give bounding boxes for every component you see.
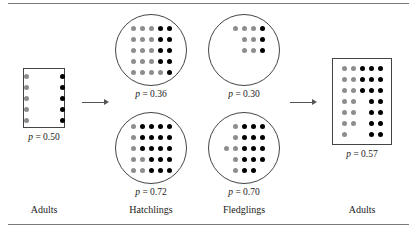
dot-empty [251,59,256,64]
dot-gray [131,124,136,129]
dot-empty [224,168,229,173]
dot-empty [360,99,365,104]
fledglings-bottom-p-value: = 0.70 [235,187,259,197]
dot-black [158,157,163,162]
panel-adults-final: p = 0.57 Adults [322,58,402,145]
dot-black [378,66,383,71]
dot-black [242,146,247,151]
dot-gray [140,70,145,75]
arrow-shaft [82,102,105,103]
dot-gray [149,48,154,53]
dot-gray [131,157,136,162]
fledglings-top-circle [208,14,280,86]
fledglings-bottom-circle [208,112,280,184]
dot-black [158,37,163,42]
dot-black [360,77,365,82]
dot-black [260,146,265,151]
dot-gray [351,88,356,93]
dot-empty [351,132,356,137]
dot-gray [24,107,29,112]
dot-gray [24,74,29,79]
dot-gray [131,48,136,53]
dot-black [260,157,265,162]
dot-gray [251,48,256,53]
dot-gray [251,37,256,42]
dot-black [158,124,163,129]
dot-gray [342,77,347,82]
dot-black [251,157,256,162]
adults-initial-box [23,68,65,128]
arrow-adults-to-hatchlings [82,98,110,108]
dot-empty [360,110,365,115]
dot-gray [140,157,145,162]
dot-gray [131,168,136,173]
dot-gray [140,26,145,31]
dot-black [260,124,265,129]
dot-gray [158,70,163,75]
dot-black [260,135,265,140]
dot-black [140,124,145,129]
top-rule [8,3,409,4]
hatchlings-bottom-circle [115,112,187,184]
dot-gray [351,77,356,82]
dot-gray [24,118,29,123]
figure-root: p = 0.50 Adults p = 0.36 p = 0.30 p = 0.… [0,0,417,235]
dot-empty [260,168,265,173]
bottom-rule [8,224,409,225]
arrow-head [104,99,109,105]
dot-gray [24,96,29,101]
dot-black [378,132,383,137]
dot-empty [224,48,229,53]
dot-black [369,121,374,126]
dot-empty [51,107,56,112]
dot-gray [131,146,136,151]
dot-gray [224,146,229,151]
dot-empty [260,59,265,64]
dot-black [378,121,383,126]
dot-empty [251,70,256,75]
fledglings-caption: Fledglings [206,204,282,215]
dot-gray [242,48,247,53]
dot-gray [131,26,136,31]
dot-empty [42,85,47,90]
dot-gray [131,135,136,140]
panel-fledglings-top: p = 0.30 [206,14,282,86]
dot-black [369,77,374,82]
dot-empty [242,59,247,64]
dot-gray [149,70,154,75]
dot-gray [351,99,356,104]
dot-black [360,66,365,71]
arrow-head [312,99,317,105]
fledglings-bottom-dot-grid [209,113,279,183]
panel-fledglings-bottom: p = 0.70 Fledglings [206,112,282,184]
fledglings-top-p-value: = 0.30 [235,89,259,99]
dot-black [149,168,154,173]
dot-black [260,26,265,31]
dot-gray [342,121,347,126]
dot-black [140,135,145,140]
adults-initial-p-value: = 0.50 [35,132,59,142]
hatchlings-bottom-p-value: = 0.72 [142,187,166,197]
dot-gray [131,70,136,75]
dot-gray [24,85,29,90]
dot-black [242,124,247,129]
dot-black [158,146,163,151]
dot-gray [131,59,136,64]
dot-black [140,146,145,151]
arrow-shaft [290,102,313,103]
dot-gray [242,37,247,42]
dot-gray [351,66,356,71]
dot-black [158,26,163,31]
adults-initial-dot-grid [24,69,64,127]
dot-black [251,135,256,140]
dot-black [369,110,374,115]
dot-black [242,135,247,140]
dot-gray [233,124,238,129]
dot-black [60,107,65,112]
dot-gray [342,99,347,104]
dot-empty [51,118,56,123]
dot-black [378,99,383,104]
hatchlings-top-p-label: p = 0.36 [113,89,189,99]
adults-final-p-label: p = 0.57 [322,149,402,159]
dot-black [378,110,383,115]
